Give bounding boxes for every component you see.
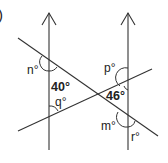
question-marker: ) — [0, 6, 3, 23]
angle-diagram: ) n° 40° q° p° 46° m° r° — [0, 0, 168, 163]
label-46: 46° — [106, 89, 125, 103]
transversal-ascending — [18, 69, 152, 131]
angle-arc-r — [128, 121, 135, 127]
label-q: q° — [55, 95, 67, 109]
label-m: m° — [101, 119, 116, 133]
label-40: 40° — [51, 80, 70, 94]
angle-arc-40 — [49, 67, 57, 71]
label-n: n° — [27, 63, 39, 77]
label-p: p° — [104, 61, 116, 75]
label-r: r° — [131, 130, 140, 144]
